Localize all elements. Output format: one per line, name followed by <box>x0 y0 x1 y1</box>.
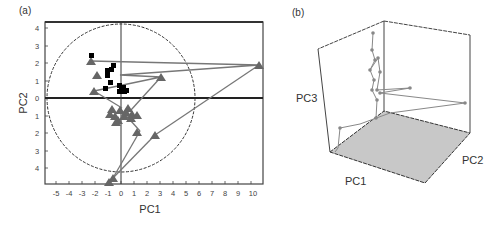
svg-text:2: 2 <box>35 129 39 138</box>
svg-text:-4: -4 <box>66 189 73 198</box>
svg-text:4: 4 <box>171 189 175 198</box>
trajectory-points <box>338 31 467 130</box>
svg-text:1: 1 <box>35 77 39 86</box>
svg-text:4: 4 <box>35 24 39 33</box>
svg-text:4: 4 <box>35 164 39 173</box>
pc3-axis-label: PC3 <box>296 92 317 104</box>
x-axis-label: PC1 <box>139 203 160 215</box>
svg-text:3: 3 <box>35 42 39 51</box>
svg-text:0: 0 <box>119 189 123 198</box>
svg-text:2: 2 <box>35 59 39 68</box>
pc1-axis-label: PC1 <box>345 175 366 187</box>
plot-frame <box>45 22 263 184</box>
top-right-edge <box>384 21 470 35</box>
panel-b-3d-plot: PC3 PC1 PC2 <box>296 21 483 187</box>
svg-text:3: 3 <box>158 189 162 198</box>
svg-text:8: 8 <box>223 189 227 198</box>
svg-text:-1: -1 <box>105 189 112 198</box>
svg-text:3: 3 <box>35 147 39 156</box>
svg-text:0: 0 <box>35 94 39 103</box>
svg-text:2: 2 <box>145 189 149 198</box>
svg-text:6: 6 <box>197 189 201 198</box>
left-edge <box>318 49 330 152</box>
axis-ticks <box>45 28 251 184</box>
figure: (a) -5 -4 -3 -2 -1 0 1 <box>0 0 495 226</box>
svg-text:9: 9 <box>236 189 240 198</box>
pc2-axis-label: PC2 <box>462 154 483 166</box>
top-left-edge <box>318 21 384 49</box>
y-tick-labels: 4 3 2 1 0 1 2 3 4 <box>35 24 39 173</box>
panel-a-label: (a) <box>19 5 31 16</box>
floor-plane <box>330 111 470 183</box>
svg-text:-5: -5 <box>53 189 60 198</box>
svg-text:10: 10 <box>249 189 257 198</box>
svg-text:1: 1 <box>35 112 39 121</box>
svg-text:7: 7 <box>210 189 214 198</box>
svg-text:1: 1 <box>132 189 136 198</box>
svg-text:5: 5 <box>184 189 188 198</box>
panel-b-label: (b) <box>292 7 304 18</box>
y-axis-label: PC2 <box>17 92 29 113</box>
svg-text:-3: -3 <box>79 189 86 198</box>
x-tick-labels: -5 -4 -3 -2 -1 0 1 2 3 4 5 6 7 8 9 10 <box>53 189 258 198</box>
svg-text:-2: -2 <box>92 189 99 198</box>
panel-a-plot: -5 -4 -3 -2 -1 0 1 2 3 4 5 6 7 8 9 10 4 … <box>17 22 264 215</box>
